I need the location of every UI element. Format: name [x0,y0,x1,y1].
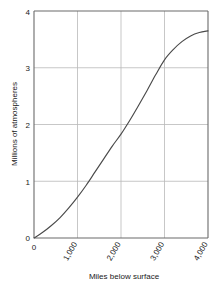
y-axis-title: Millions of atmospheres [10,82,19,166]
x-tick-label-0: 0 [32,243,37,252]
pressure-depth-line-chart: 0 1 2 3 4 0 1,000 2,000 3,000 4,000 Mile… [0,0,223,288]
y-tick-label-2: 2 [26,121,31,130]
y-tick-label-1: 1 [26,178,31,187]
x-axis-title: Miles below surface [89,272,160,281]
chart-container: 0 1 2 3 4 0 1,000 2,000 3,000 4,000 Mile… [0,0,223,288]
y-tick-label-4: 4 [26,8,31,17]
y-tick-label-3: 3 [26,64,31,73]
y-tick-label-0: 0 [26,234,31,243]
